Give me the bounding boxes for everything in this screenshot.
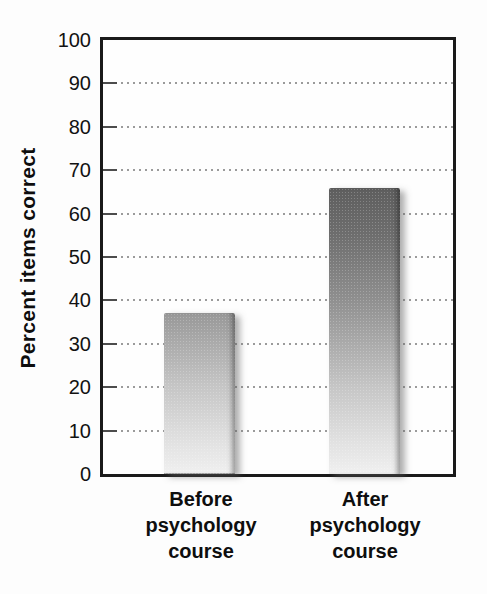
y-tick-label-20: 20 xyxy=(0,376,91,398)
gridline-50 xyxy=(103,256,453,258)
y-axis: 0102030405060708090100 xyxy=(0,0,91,594)
y-tick-label-50: 50 xyxy=(0,246,91,268)
gridline-30 xyxy=(103,343,453,345)
y-tick-label-0: 0 xyxy=(0,463,91,485)
y-tick-label-90: 90 xyxy=(0,72,91,94)
gridline-10 xyxy=(103,430,453,432)
bar-after-psychology-course xyxy=(329,188,400,474)
x-axis-label-before-psychology-course: Before psychology course xyxy=(145,486,256,564)
y-tick-label-30: 30 xyxy=(0,333,91,355)
gridline-80 xyxy=(103,126,453,128)
y-tick-label-60: 60 xyxy=(0,203,91,225)
gridline-20 xyxy=(103,386,453,388)
y-tick-label-100: 100 xyxy=(0,29,91,51)
bar-before-psychology-course xyxy=(164,313,235,474)
plot-area xyxy=(100,37,456,477)
gridline-40 xyxy=(103,299,453,301)
y-tick-label-80: 80 xyxy=(0,116,91,138)
gridline-90 xyxy=(103,82,453,84)
x-axis-label-after-psychology-course: After psychology course xyxy=(309,486,420,564)
gridline-70 xyxy=(103,169,453,171)
bar-chart-figure: Percent items correct 010203040506070809… xyxy=(0,0,487,594)
y-tick-label-40: 40 xyxy=(0,289,91,311)
y-tick-label-10: 10 xyxy=(0,420,91,442)
y-tick-label-70: 70 xyxy=(0,159,91,181)
gridline-60 xyxy=(103,213,453,215)
